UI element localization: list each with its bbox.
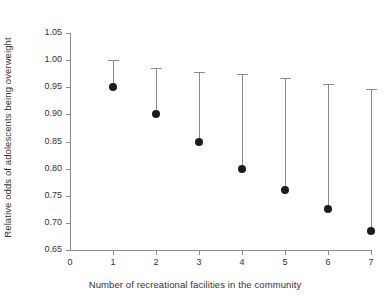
error-bar-cap — [280, 78, 291, 79]
data-point — [281, 186, 289, 194]
error-bar-line — [328, 84, 329, 209]
y-axis-line — [70, 33, 71, 251]
data-point — [367, 227, 375, 235]
x-tick-label: 2 — [146, 257, 166, 267]
error-bar-cap — [151, 68, 162, 69]
x-tick-label: 0 — [60, 257, 80, 267]
y-tick-label: 0.75 — [28, 190, 62, 200]
x-tick-label: 5 — [275, 257, 295, 267]
error-bar-cap — [323, 84, 334, 85]
error-bar-line — [199, 72, 200, 141]
error-bar-cap — [108, 60, 119, 61]
error-bar-line — [242, 74, 243, 168]
y-tick-label: 0.90 — [28, 108, 62, 118]
x-tick-label: 6 — [318, 257, 338, 267]
data-point — [152, 110, 160, 118]
y-tick-label: 0.95 — [28, 81, 62, 91]
y-tick-label: 0.70 — [28, 217, 62, 227]
y-tick-label: 0.80 — [28, 163, 62, 173]
data-point — [109, 83, 117, 91]
error-bar-line — [156, 68, 157, 114]
chart-figure: Relative odds of adolescents being overw… — [0, 0, 390, 303]
y-tick-label: 1.05 — [28, 27, 62, 37]
x-tick-label: 3 — [189, 257, 209, 267]
y-tick-mark — [66, 223, 70, 224]
x-tick-mark — [199, 251, 200, 255]
y-axis-title: Relative odds of adolescents being overw… — [2, 0, 16, 289]
x-axis-title: Number of recreational facilities in the… — [0, 279, 390, 290]
error-bar-cap — [237, 74, 248, 75]
x-tick-label: 4 — [232, 257, 252, 267]
x-tick-mark — [371, 251, 372, 255]
y-tick-mark — [66, 142, 70, 143]
data-point — [195, 138, 203, 146]
x-tick-mark — [242, 251, 243, 255]
y-tick-mark — [66, 87, 70, 88]
x-tick-mark — [113, 251, 114, 255]
y-tick-mark — [66, 250, 70, 251]
y-tick-mark — [66, 196, 70, 197]
y-tick-label: 0.85 — [28, 136, 62, 146]
x-tick-label: 1 — [103, 257, 123, 267]
y-tick-label: 0.65 — [28, 244, 62, 254]
x-tick-mark — [285, 251, 286, 255]
x-tick-mark — [156, 251, 157, 255]
x-axis-line — [70, 250, 372, 251]
x-tick-mark — [328, 251, 329, 255]
data-point — [324, 205, 332, 213]
y-tick-mark — [66, 33, 70, 34]
y-tick-mark — [66, 114, 70, 115]
y-tick-label: 1.00 — [28, 54, 62, 64]
error-bar-cap — [366, 89, 377, 90]
y-tick-mark — [66, 169, 70, 170]
error-bar-cap — [194, 72, 205, 73]
error-bar-line — [371, 89, 372, 231]
x-tick-label: 7 — [361, 257, 381, 267]
error-bar-line — [285, 78, 286, 190]
data-point — [238, 165, 246, 173]
y-tick-mark — [66, 60, 70, 61]
